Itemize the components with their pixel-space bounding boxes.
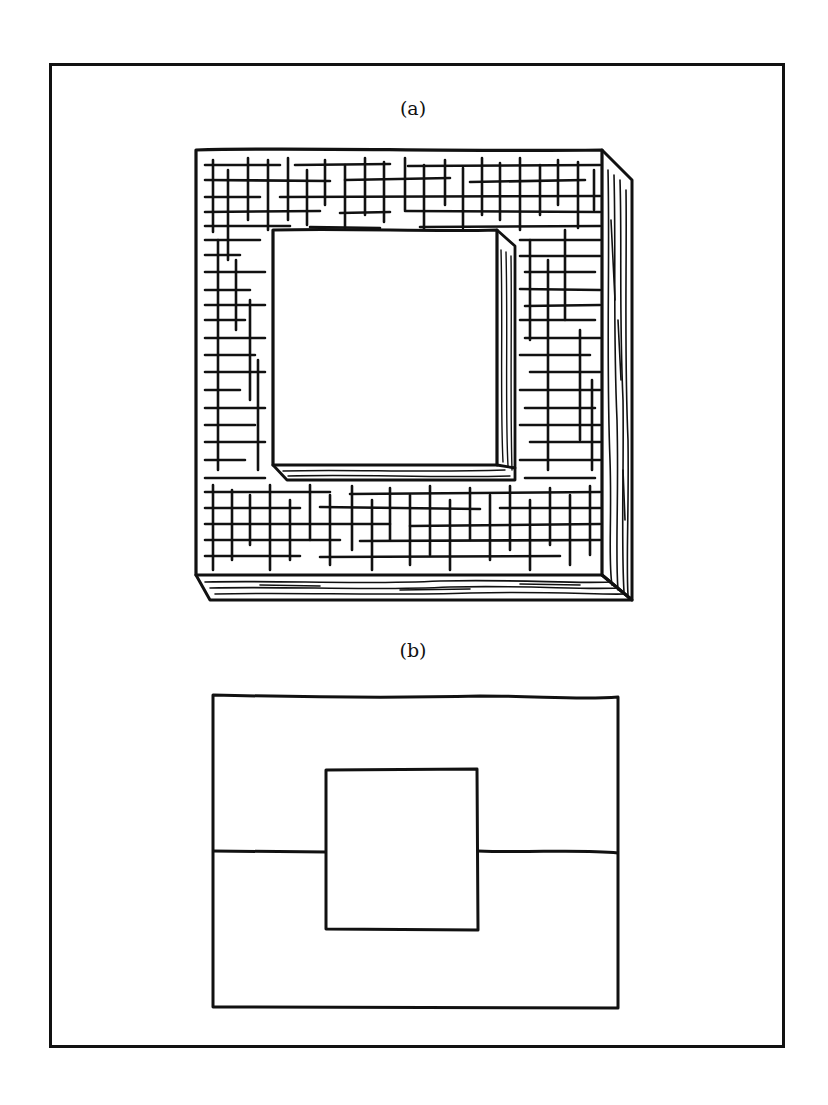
inner-square — [326, 769, 478, 930]
panel-b-outline-diagram — [0, 0, 828, 1105]
right-horizontal-line — [478, 851, 618, 853]
left-horizontal-line — [213, 851, 326, 852]
